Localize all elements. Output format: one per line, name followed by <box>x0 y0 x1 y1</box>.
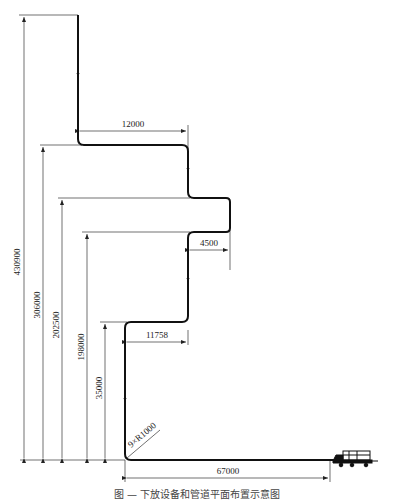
flow-arrow-icon <box>187 278 190 282</box>
dim-202500-label: 202500 <box>51 311 61 339</box>
dim-12000-label: 12000 <box>122 119 145 129</box>
extension-lines <box>19 15 330 482</box>
dim-35000-label: 35000 <box>94 376 104 399</box>
dim-11758-label: 11758 <box>146 330 169 340</box>
dim-430900-label: 430900 <box>12 248 22 276</box>
vertical-dimensions <box>24 17 105 458</box>
truck-icon <box>333 451 378 467</box>
dim-198000-label: 198000 <box>76 333 86 361</box>
dim-306000-label: 306000 <box>32 291 42 319</box>
flow-arrow-icon <box>77 73 80 77</box>
flow-arrow-icon <box>187 168 190 172</box>
dim-67000-label: 67000 <box>217 466 240 476</box>
horizontal-dimensions <box>80 131 328 478</box>
dim-4500-label: 4500 <box>200 238 219 248</box>
flow-arrow-icon <box>124 398 127 402</box>
figure-caption: 图 — 下放设备和管道平面布置示意图 <box>0 486 394 501</box>
